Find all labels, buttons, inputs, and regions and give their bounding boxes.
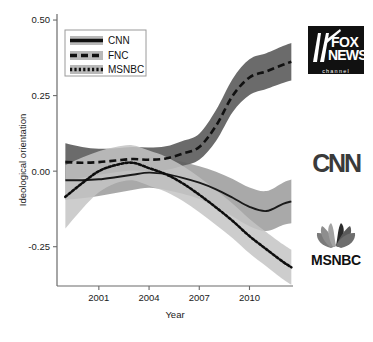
y-axis-title: Ideological orientation xyxy=(17,114,28,206)
y-tick-label: 0.00 xyxy=(32,166,51,177)
x-tick-label: 2007 xyxy=(189,292,210,303)
legend-label-cnn: CNN xyxy=(108,35,130,46)
legend-label-msnbc: MSNBC xyxy=(108,64,144,75)
cnn-logo-text: CNN xyxy=(312,149,361,177)
x-axis-title: Year xyxy=(165,309,184,320)
y-tick-label: -0.25 xyxy=(28,241,50,252)
legend-item-msnbc[interactable]: MSNBC xyxy=(70,64,144,75)
chart-legend: CNN FNC MSNBC xyxy=(65,30,146,76)
chart-figure: 0.500.250.00-0.25 2001200420072010 Ideol… xyxy=(0,0,373,342)
x-tick-label: 2010 xyxy=(239,292,260,303)
fox-news-logo-line2: NEWS xyxy=(328,47,367,63)
fox-news-logo-line3: channel xyxy=(322,68,350,74)
x-tick-label: 2001 xyxy=(88,292,109,303)
legend-label-fnc: FNC xyxy=(108,50,129,61)
legend-item-cnn[interactable]: CNN xyxy=(70,35,130,46)
msnbc-logo-text: MSNBC xyxy=(311,252,361,268)
y-tick-label: 0.25 xyxy=(32,90,51,101)
x-tick-label: 2004 xyxy=(138,292,159,303)
chart-svg: 0.500.250.00-0.25 2001200420072010 Ideol… xyxy=(0,0,373,342)
y-tick-label: 0.50 xyxy=(32,14,51,25)
cnn-logo: CNN xyxy=(312,149,361,177)
legend-item-fnc[interactable]: FNC xyxy=(70,50,129,61)
fox-news-logo: FOX NEWS channel xyxy=(308,26,367,74)
